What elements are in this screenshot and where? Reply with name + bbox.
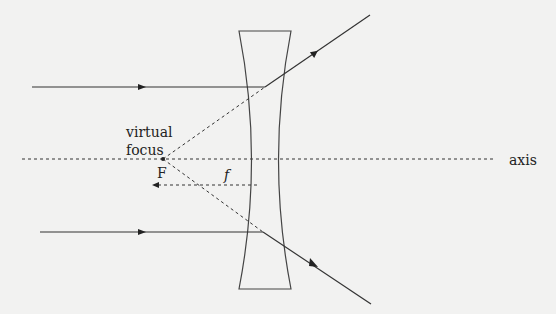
- arrow-icon: [138, 229, 146, 235]
- concave-lens: [239, 31, 291, 289]
- refracted-ray-bottom: [263, 232, 371, 304]
- arrow-icon: [310, 51, 318, 58]
- focal-point-label: F: [157, 165, 167, 181]
- focal-length-label: f: [223, 167, 232, 183]
- virtual-ray-bottom: [163, 159, 263, 232]
- axis-label: axis: [509, 152, 537, 168]
- virtual-ray-top: [163, 87, 265, 159]
- arrow-icon: [138, 84, 146, 90]
- arrow-icon: [309, 258, 318, 267]
- diagram-canvas: virtual focus F f axis: [0, 0, 556, 314]
- arrow-icon: [152, 182, 159, 188]
- lens-diagram: virtual focus F f axis: [0, 0, 556, 314]
- virtual-label: virtual: [125, 124, 173, 140]
- focus-label: focus: [126, 142, 164, 158]
